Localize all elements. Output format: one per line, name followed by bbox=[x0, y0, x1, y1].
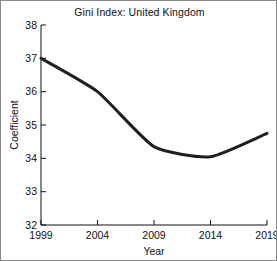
x-tick-label: 2014 bbox=[199, 229, 223, 241]
x-axis-tick-labels: 1999 2004 2009 2014 2019 bbox=[29, 229, 277, 241]
y-axis-ticks bbox=[41, 25, 46, 225]
x-axis-ticks bbox=[41, 220, 267, 225]
y-tick-label: 38 bbox=[25, 19, 37, 31]
y-tick-label: 35 bbox=[25, 119, 37, 131]
y-tick-label: 37 bbox=[25, 52, 37, 64]
y-axis-title: Coefficient bbox=[8, 100, 20, 150]
chart-figure: Gini Index: United Kingdom 32 33 34 35 3… bbox=[0, 0, 277, 261]
data-series-line bbox=[41, 58, 267, 157]
y-tick-label: 36 bbox=[25, 85, 37, 97]
x-tick-label: 2009 bbox=[142, 229, 166, 241]
x-tick-label: 1999 bbox=[29, 229, 53, 241]
plot-area: 32 33 34 35 36 37 38 1999 2004 2009 2014… bbox=[1, 1, 277, 261]
x-axis-title: Year bbox=[143, 245, 165, 257]
x-tick-label: 2019 bbox=[255, 229, 277, 241]
y-tick-label: 34 bbox=[25, 152, 37, 164]
y-axis-tick-labels: 32 33 34 35 36 37 38 bbox=[25, 19, 37, 231]
x-tick-label: 2004 bbox=[86, 229, 110, 241]
y-tick-label: 33 bbox=[25, 185, 37, 197]
